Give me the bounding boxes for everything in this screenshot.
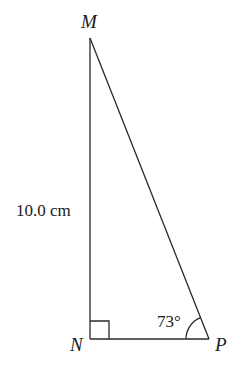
vertex-label-m: M xyxy=(80,11,98,32)
angle-arc-p xyxy=(186,318,201,339)
right-angle-marker xyxy=(90,321,109,339)
vertex-label-n: N xyxy=(69,334,84,355)
side-mp-hypotenuse xyxy=(90,38,209,339)
side-length-label: 10.0 cm xyxy=(16,201,71,220)
angle-label-p: 73° xyxy=(157,312,181,331)
vertex-label-p: P xyxy=(214,334,227,355)
triangle-diagram: M N P 10.0 cm 73° xyxy=(0,0,236,380)
